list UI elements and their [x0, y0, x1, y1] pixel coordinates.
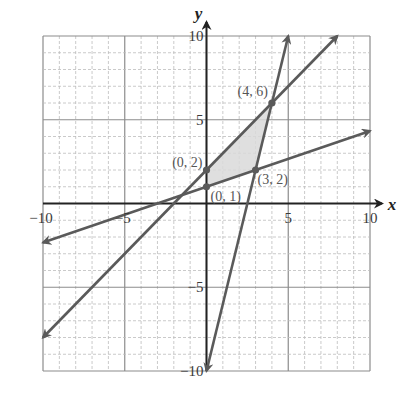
vertex-point [268, 99, 275, 106]
y-axis-label: y [193, 4, 203, 23]
point-label: (4, 6) [238, 84, 269, 100]
labels: −10−5510105−5−10xy(0, 2)(0, 1)(3, 2)(4, … [29, 4, 396, 379]
x-axis-label: x [387, 195, 397, 214]
x-tick-label: −5 [115, 210, 131, 226]
y-tick-label: 5 [196, 112, 204, 128]
x-tick-label: 5 [285, 210, 293, 226]
x-tick-label: 10 [363, 210, 378, 226]
y-tick-label: −5 [188, 279, 204, 295]
vertex-point [203, 166, 210, 173]
x-tick-label: −10 [29, 210, 52, 226]
point-label: (0, 1) [211, 189, 242, 205]
vertex-point [203, 183, 210, 190]
coordinate-plane: −10−5510105−5−10xy(0, 2)(0, 1)(3, 2)(4, … [0, 0, 418, 404]
point-label: (3, 2) [258, 172, 289, 188]
y-tick-label: 10 [189, 28, 204, 44]
y-tick-label: −10 [180, 363, 203, 379]
point-label: (0, 2) [172, 155, 203, 171]
